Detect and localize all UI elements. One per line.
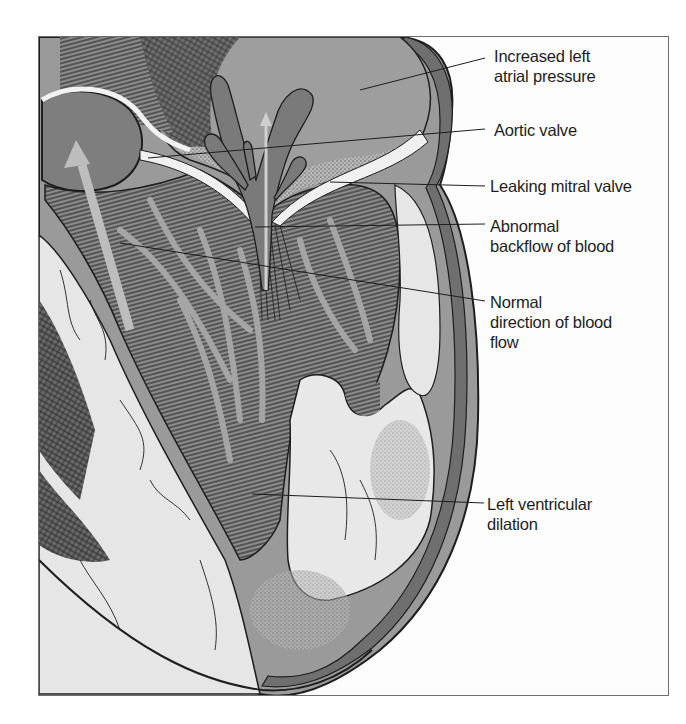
label-aortic-valve: Aortic valve [494, 120, 577, 140]
label-left-ventricular-dilation: Left ventricular dilation [487, 494, 592, 534]
label-line: Left ventricular [487, 494, 592, 514]
label-line: Abnormal [490, 216, 614, 236]
label-line: Leaking mitral valve [490, 176, 632, 196]
aortic-root [42, 91, 142, 191]
label-line: backflow of blood [490, 236, 614, 256]
label-leaking-mitral-valve: Leaking mitral valve [490, 176, 632, 196]
heart-illustration [0, 0, 686, 724]
label-line: Aortic valve [494, 120, 577, 140]
label-increased-left-atrial-pressure: Increased left atrial pressure [494, 46, 596, 86]
label-line: Increased left [494, 46, 596, 66]
label-line: direction of blood [490, 312, 612, 332]
label-line: dilation [487, 514, 592, 534]
label-line: atrial pressure [494, 66, 596, 86]
label-line: flow [490, 332, 612, 352]
label-line: Normal [490, 292, 612, 312]
label-abnormal-backflow-of-blood: Abnormal backflow of blood [490, 216, 614, 256]
label-normal-direction-of-blood-flow: Normal direction of blood flow [490, 292, 612, 352]
